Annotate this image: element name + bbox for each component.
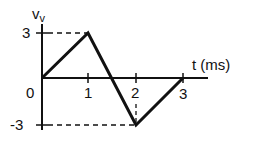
x-tick-label-2: 2 <box>131 84 139 101</box>
x-tick-label-3: 3 <box>179 85 187 102</box>
waveform-chart: vv 3 -3 0 1 2 3 t (ms) <box>0 0 257 146</box>
x-tick-label-1: 1 <box>84 84 92 101</box>
x-tick-label-0: 0 <box>26 84 34 101</box>
y-axis-label: vv <box>32 5 46 24</box>
y-tick-label-3: 3 <box>22 24 30 41</box>
y-tick-label-neg3: -3 <box>10 116 23 133</box>
x-axis-label: t (ms) <box>192 56 230 73</box>
